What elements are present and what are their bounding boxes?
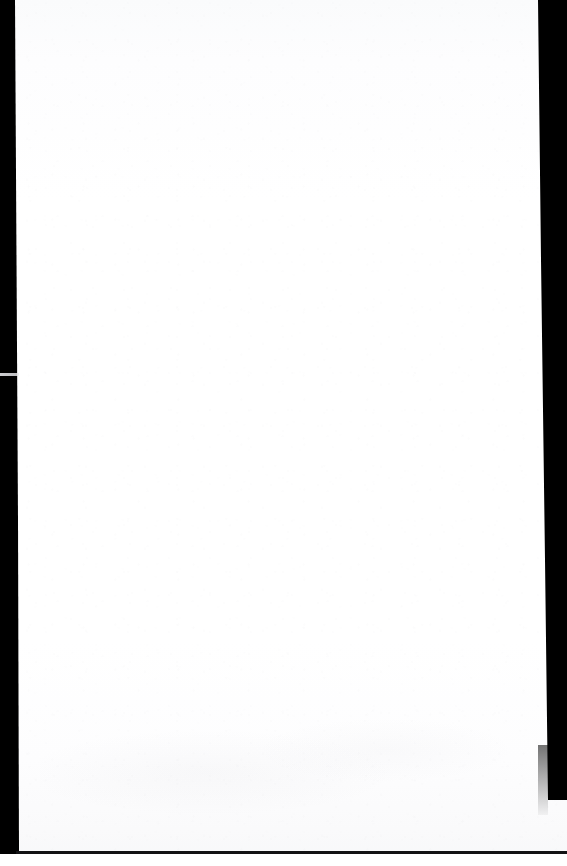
scanner-bottom-fill bbox=[0, 854, 567, 866]
page-body-text bbox=[40, 50, 520, 810]
scanner-edge-left-notch bbox=[0, 373, 19, 376]
scanned-page-canvas bbox=[0, 0, 567, 866]
